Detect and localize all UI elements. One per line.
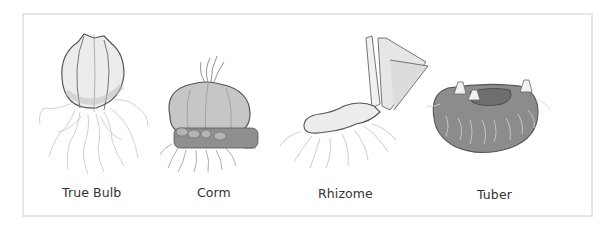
tuber-icon: [0, 0, 616, 230]
tuber-label: Tuber: [477, 187, 512, 202]
